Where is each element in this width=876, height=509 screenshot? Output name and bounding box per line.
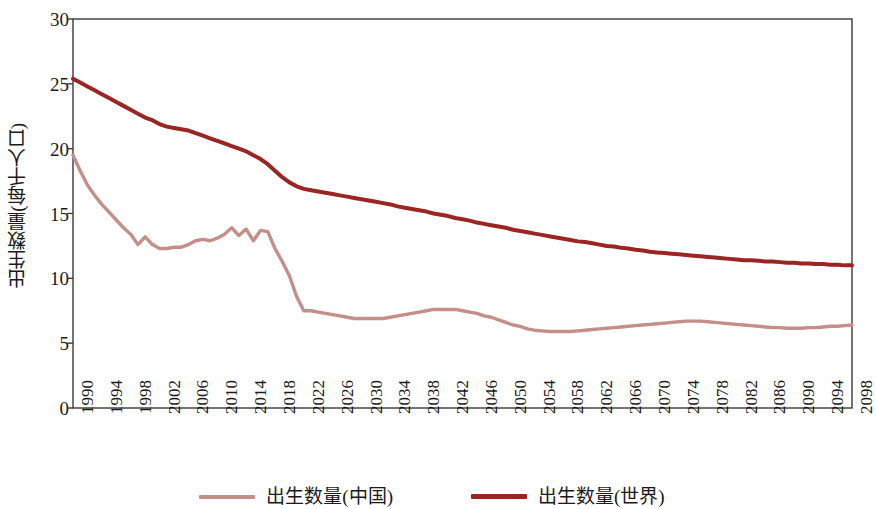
legend-item-china[interactable]: 出生数量(中国) bbox=[199, 487, 393, 506]
legend-label-world: 出生数量(世界) bbox=[538, 487, 665, 506]
series-line-world bbox=[73, 79, 852, 266]
series-line-china bbox=[73, 155, 852, 331]
chart-legend: 出生数量(中国) 出生数量(世界) bbox=[0, 484, 864, 509]
legend-item-world[interactable]: 出生数量(世界) bbox=[471, 487, 665, 506]
plot-frame bbox=[73, 19, 852, 408]
legend-swatch-world bbox=[471, 494, 527, 499]
legend-swatch-china bbox=[199, 495, 255, 499]
legend-label-china: 出生数量(中国) bbox=[266, 487, 393, 506]
